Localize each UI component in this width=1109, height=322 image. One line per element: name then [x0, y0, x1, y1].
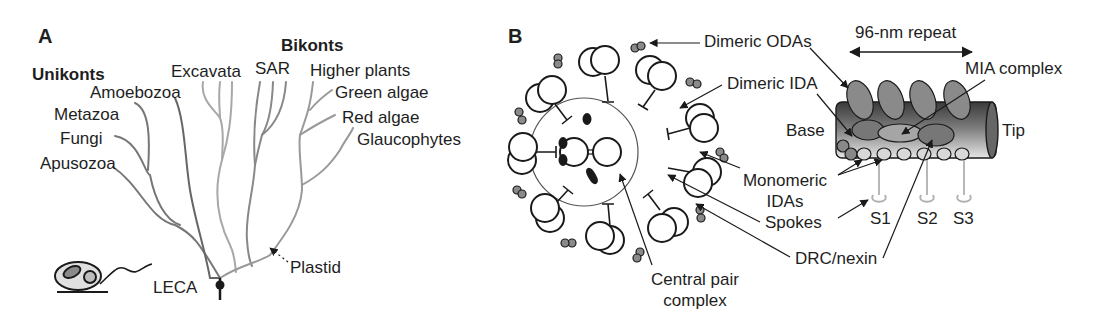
branch-archaeplastida	[220, 82, 313, 278]
label-96nm-repeat: 96-nm repeat	[855, 24, 956, 41]
panel-b-label: B	[508, 26, 522, 46]
label-base: Base	[786, 122, 825, 139]
label-monomeric-idas-line2: IDAs	[737, 193, 833, 210]
phylogenetic-tree	[113, 82, 353, 278]
label-monomeric-idas-line1: Monomeric	[737, 172, 833, 189]
branch-amoebozoa	[175, 98, 210, 278]
label-drc-nexin: DRC/nexin	[795, 250, 877, 267]
branch-sar	[247, 82, 260, 266]
plastid-label: Plastid	[290, 259, 341, 276]
branch-apusozoa	[113, 167, 220, 278]
label-mia-complex: MIA complex	[965, 60, 1062, 77]
root-label-leca: LECA	[153, 279, 197, 296]
label-spoke-s1: S1	[870, 210, 891, 227]
arrow-monomeric-repeat-2	[838, 160, 882, 175]
taxon-label-fungi: Fungi	[60, 130, 103, 147]
branch-glaucophytes	[302, 128, 353, 185]
label-central-pair-line2: complex	[640, 292, 750, 309]
taxon-label-metazoa: Metazoa	[54, 106, 119, 123]
taxon-label-amoebozoa: Amoebozoa	[90, 84, 181, 101]
panel-a-label: A	[38, 26, 52, 46]
group-label-unikonts: Unikonts	[32, 66, 105, 83]
label-central-pair-line1: Central pair	[640, 271, 750, 288]
taxon-label-green-algae: Green algae	[335, 84, 429, 101]
leca-root-node	[216, 278, 225, 300]
taxon-label-higher-plants: Higher plants	[310, 62, 410, 79]
taxon-label-sar: SAR	[255, 60, 290, 77]
taxon-label-apusozoa: Apusozoa	[40, 155, 116, 172]
label-tip: Tip	[1002, 122, 1025, 139]
label-spoke-s3: S3	[953, 210, 974, 227]
taxon-label-glaucophytes: Glaucophytes	[357, 131, 461, 148]
taxon-label-red-algae: Red algae	[342, 109, 420, 126]
branch-fungi	[115, 136, 180, 225]
label-dimeric-odas: Dimeric ODAs	[704, 33, 812, 50]
arrow-spokes-repeat	[838, 200, 868, 218]
branch-green-algae	[310, 90, 332, 110]
label-dimeric-ida: Dimeric IDA	[727, 75, 818, 92]
label-spoke-s2: S2	[917, 210, 938, 227]
label-spokes: Spokes	[765, 214, 822, 231]
figure-canvas	[0, 0, 1109, 322]
taxon-label-excavata: Excavata	[171, 63, 241, 80]
flagellate-cell-icon	[55, 262, 152, 292]
group-label-bikonts: Bikonts	[281, 37, 343, 54]
axoneme-cross-section	[508, 42, 728, 262]
